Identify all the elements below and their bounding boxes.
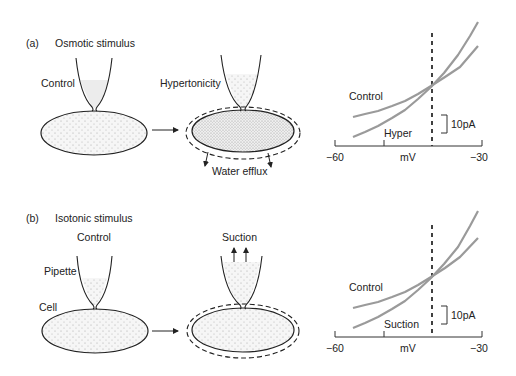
trace-control — [353, 46, 478, 117]
panel-b-tag: (b) — [26, 212, 39, 224]
panel-a: (a) Osmotic stimulus Control Hypertonici… — [26, 22, 488, 177]
cell-body — [42, 309, 148, 353]
scale-bar-label: 10pA — [451, 118, 476, 130]
trace-control — [353, 238, 478, 308]
panel-a-title: Osmotic stimulus — [55, 37, 135, 49]
iv-plot-a: −60 mV −30 Control Hyper 10pA — [326, 22, 488, 163]
x-unit-label: mV — [400, 151, 416, 163]
scale-bar — [441, 115, 447, 133]
curve-label-hyper: Hyper — [384, 127, 413, 139]
curve-label-control: Control — [349, 281, 383, 293]
water-efflux-label: Water efflux — [212, 165, 268, 177]
panel-b: (b) Isotonic stimulus Control Pipette Ce… — [26, 211, 488, 358]
hypertonic-cell-a: Hypertonicity Water efflux — [160, 55, 300, 177]
panel-a-tag: (a) — [26, 37, 39, 49]
curve-label-control: Control — [349, 90, 383, 102]
efflux-arrow-left — [205, 152, 208, 166]
cell-body — [192, 308, 294, 352]
control-label-a: Control — [41, 77, 75, 89]
scale-bar-label: 10pA — [451, 309, 476, 321]
iv-plot-b: −60 mV −30 Control Suction 10pA — [326, 211, 488, 354]
suction-cell-b: Suction — [187, 231, 299, 358]
cell-label: Cell — [39, 301, 57, 313]
x-max-label: −30 — [470, 342, 488, 354]
control-cell-b: Control Pipette Cell — [39, 231, 148, 353]
panel-b-title: Isotonic stimulus — [55, 212, 133, 224]
scale-bar — [441, 306, 447, 324]
pipette-label: Pipette — [44, 265, 77, 277]
curve-label-suction: Suction — [384, 318, 419, 330]
x-min-label: −60 — [326, 342, 344, 354]
x-max-label: −30 — [470, 151, 488, 163]
figure: (a) Osmotic stimulus Control Hypertonici… — [0, 0, 516, 376]
control-cell-a: Control — [41, 58, 147, 155]
x-min-label: −60 — [326, 151, 344, 163]
cell-body — [41, 111, 147, 155]
x-unit-label: mV — [400, 342, 416, 354]
efflux-arrow-right — [268, 153, 271, 167]
shrunken-cell-body — [192, 110, 294, 152]
control-title-b: Control — [77, 231, 111, 243]
suction-label: Suction — [222, 231, 257, 243]
hypertonicity-label: Hypertonicity — [160, 77, 221, 89]
